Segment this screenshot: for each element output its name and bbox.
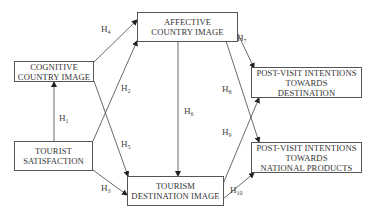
label-h4: H4 bbox=[101, 24, 111, 35]
node-post-visit-national-products: POST-VISIT INTENTIONS TOWARDS NATIONAL P… bbox=[251, 142, 362, 173]
label-h6: H6 bbox=[184, 106, 194, 117]
node-post-visit-destination: POST-VISIT INTENTIONS TOWARDS DESTINATIO… bbox=[251, 67, 362, 98]
node-affective-country-image: AFFECTIVE COUNTRY IMAGE bbox=[137, 12, 238, 42]
arrow-h5 bbox=[94, 81, 128, 176]
node-label: POST-VISIT INTENTIONS TOWARDS NATIONAL P… bbox=[256, 143, 356, 173]
label-h9: H9 bbox=[222, 127, 232, 138]
label-h1: H1 bbox=[59, 113, 69, 124]
label-h10: H10 bbox=[230, 185, 243, 196]
label-h2: H2 bbox=[121, 83, 131, 94]
node-label: COGNITIVE COUNTRY IMAGE bbox=[18, 62, 90, 82]
node-tourist-satisfaction: TOURIST SATISFACTION bbox=[14, 141, 93, 171]
node-tourism-destination-image: TOURISM DESTINATION IMAGE bbox=[127, 176, 224, 206]
node-label: AFFECTIVE COUNTRY IMAGE bbox=[151, 17, 223, 37]
node-cognitive-country-image: COGNITIVE COUNTRY IMAGE bbox=[14, 61, 94, 82]
node-label: POST-VISIT INTENTIONS TOWARDS DESTINATIO… bbox=[256, 68, 356, 98]
label-h7: H7 bbox=[237, 33, 247, 44]
node-label: TOURISM DESTINATION IMAGE bbox=[131, 181, 219, 201]
label-h3: H3 bbox=[101, 183, 111, 194]
label-h8: H8 bbox=[222, 84, 232, 95]
label-h5: H5 bbox=[121, 139, 131, 150]
node-label: TOURIST SATISFACTION bbox=[23, 146, 84, 166]
